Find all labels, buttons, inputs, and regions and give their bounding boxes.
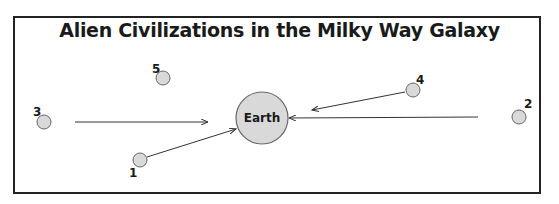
civilization-5-label: 5	[152, 62, 160, 76]
civilization-3-label: 3	[33, 105, 41, 119]
civilization-2-label: 2	[524, 97, 532, 111]
earth-label: Earth	[244, 111, 281, 125]
civilization-2-circle	[512, 110, 526, 124]
earth-node: Earth	[236, 92, 288, 144]
arrow-from-1	[147, 129, 236, 157]
civilization-1-label: 1	[129, 166, 137, 180]
civilization-1-circle	[133, 153, 147, 167]
civilization-4-label: 4	[416, 73, 424, 87]
arrow-from-2	[289, 117, 478, 118]
diagram-canvas: Earth 12345	[0, 0, 559, 204]
arrow-from-4	[312, 92, 405, 110]
